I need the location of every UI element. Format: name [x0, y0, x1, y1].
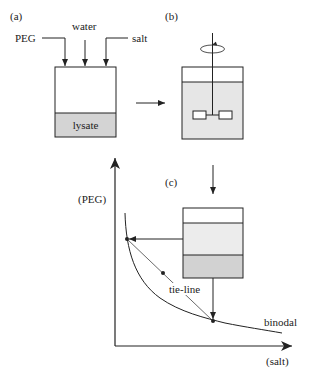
peg-arrow: [42, 38, 65, 66]
panel-a: (a) PEG water salt lysate: [10, 10, 147, 137]
top-phase-node: [125, 237, 129, 241]
panel-a-label: (a): [10, 10, 23, 23]
x-axis-label: (salt): [266, 355, 289, 368]
water-input-label: water: [72, 20, 97, 32]
bottom-phase: [183, 255, 243, 278]
top-phase: [183, 223, 243, 255]
panel-c-label: (c): [165, 176, 178, 189]
impeller-blade-right: [219, 111, 232, 119]
tie-line-label: tie-line: [169, 283, 200, 295]
panel-b: (b): [165, 10, 243, 139]
lysate-label: lysate: [73, 119, 99, 131]
panel-c: (c): [165, 176, 243, 278]
mixture-point: [161, 271, 165, 275]
aqueous-two-phase-diagram: (a) PEG water salt lysate (b) (c): [0, 0, 310, 375]
salt-arrow: [106, 38, 128, 66]
bottom-phase-node: [211, 319, 215, 323]
y-axis-label: (PEG): [78, 193, 106, 206]
salt-input-label: salt: [132, 32, 147, 44]
peg-input-label: PEG: [15, 32, 36, 44]
impeller-blade-left: [193, 111, 206, 119]
binodal-label: binodal: [264, 316, 297, 328]
panel-b-label: (b): [165, 10, 178, 23]
rotation-arrowhead-icon: [213, 42, 217, 45]
